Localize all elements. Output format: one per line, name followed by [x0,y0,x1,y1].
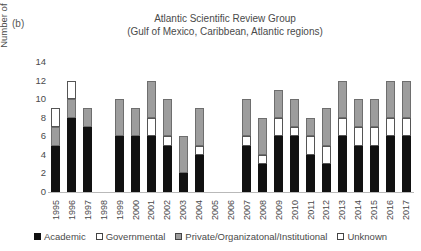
x-tick-2002: 2002 [159,193,175,215]
x-tick-label: 2001 [146,200,156,220]
bar-segment-private [83,108,92,127]
legend-item[interactable]: Unknown [337,231,387,242]
x-tick-2015: 2015 [366,193,382,215]
bar-segment-academic [131,136,140,192]
x-tick-label: 1998 [99,200,109,220]
x-tick-label: 2000 [131,200,141,220]
legend-item[interactable]: Academic [34,231,86,242]
legend-item[interactable]: Governmental [96,231,166,242]
bar-segment-private [290,99,299,127]
bar-segment-private [131,108,140,136]
stacked-bar[interactable] [274,90,283,192]
legend-item[interactable]: Private/Organizatonal/Institutional [175,231,327,242]
legend-label: Private/Organizatonal/Institutional [185,231,327,242]
stacked-bar[interactable] [402,81,411,192]
stacked-bar[interactable] [370,99,379,192]
x-tick-label: 2008 [258,200,268,220]
bar-segment-governmental [163,136,172,145]
x-tick-2005: 2005 [207,193,223,215]
x-tick-2000: 2000 [128,193,144,215]
panel-label: (b) [12,18,24,29]
bar-segment-academic [51,146,60,192]
stacked-bar[interactable] [67,81,76,192]
y-tick-8: 8 [41,113,46,123]
stacked-bar[interactable] [51,108,60,192]
bar-segment-private [115,99,124,136]
bar-segment-academic [402,136,411,192]
y-tick-10: 10 [35,94,46,104]
bar-segment-academic [354,146,363,192]
stacked-bar[interactable] [354,99,363,192]
stacked-bar[interactable] [83,108,92,192]
bar-segment-academic [83,127,92,192]
bar-segment-academic [258,164,267,192]
legend-swatch-academic-icon [34,233,41,240]
bar-segment-academic [290,136,299,192]
bar-segment-private [163,99,172,136]
stacked-bar[interactable] [386,81,395,192]
bar-segment-unknown [51,108,60,127]
stacked-bar[interactable] [338,81,347,192]
legend-swatch-priv-icon [175,233,182,240]
stacked-bar[interactable] [115,99,124,192]
bar-segment-academic [67,118,76,192]
x-tick-label: 2007 [242,200,252,220]
x-tick-2011: 2011 [303,193,319,215]
bar-segment-private [258,118,267,155]
stacked-bar[interactable] [290,99,299,192]
bar-segment-academic [338,136,347,192]
y-tick-0: 0 [41,187,46,197]
x-tick-label: 2013 [337,200,347,220]
stacked-bar[interactable] [242,99,251,192]
y-axis-ticks: 02468101214 [24,56,46,198]
chart-title-line2: (Gulf of Mexico, Caribbean, Atlantic reg… [60,25,390,38]
stacked-bar[interactable] [147,81,156,192]
x-tick-label: 2004 [194,200,204,220]
bar-segment-governmental [386,118,395,137]
x-tick-label: 1996 [67,200,77,220]
stacked-bar[interactable] [195,108,204,192]
x-tick-1996: 1996 [64,193,80,215]
stacked-bar[interactable] [258,118,267,192]
stacked-bar[interactable] [131,108,140,192]
x-tick-2013: 2013 [334,193,350,215]
bar-segment-academic [370,146,379,192]
bar-segment-governmental [370,127,379,146]
x-tick-label: 1997 [83,200,93,220]
x-tick-1999: 1999 [112,193,128,215]
legend-label: Academic [44,231,86,242]
stacked-bar[interactable] [163,99,172,192]
bar-segment-private [67,99,76,118]
bar-segment-academic [386,136,395,192]
y-tick-6: 6 [41,131,46,141]
bar-segment-governmental [290,127,299,136]
x-tick-2003: 2003 [175,193,191,215]
x-tick-2016: 2016 [382,193,398,215]
stacked-bar[interactable] [322,108,331,192]
y-tick-4: 4 [41,150,46,160]
bar-segment-governmental [274,118,283,137]
x-tick-1995: 1995 [48,193,64,215]
x-tick-label: 2011 [306,200,316,219]
bar-segment-academic [322,164,331,192]
bar-segment-governmental [147,118,156,137]
bar-segment-governmental [322,146,331,165]
x-axis-ticks: 1995199619971998199920002001200220032004… [48,193,414,233]
y-tick-12: 12 [35,76,46,86]
bar-segment-private [242,99,251,136]
bar-segment-governmental [195,146,204,155]
x-tick-2008: 2008 [255,193,271,215]
chart-title: Atlantic Scientific Review Group (Gulf o… [60,12,390,38]
bar-segment-academic [163,146,172,192]
bar-segment-private [147,81,156,118]
x-tick-label: 1995 [51,200,61,220]
stacked-bar[interactable] [179,136,188,192]
legend-label: Governmental [106,231,166,242]
chart-legend: AcademicGovernmentalPrivate/Organizatona… [0,231,421,242]
bar-segment-governmental [242,136,251,145]
chart-title-line1: Atlantic Scientific Review Group [60,12,390,25]
bar-segment-private [402,81,411,118]
stacked-bar[interactable] [306,118,315,192]
bar-segment-private [274,90,283,118]
x-tick-label: 2012 [321,200,331,220]
